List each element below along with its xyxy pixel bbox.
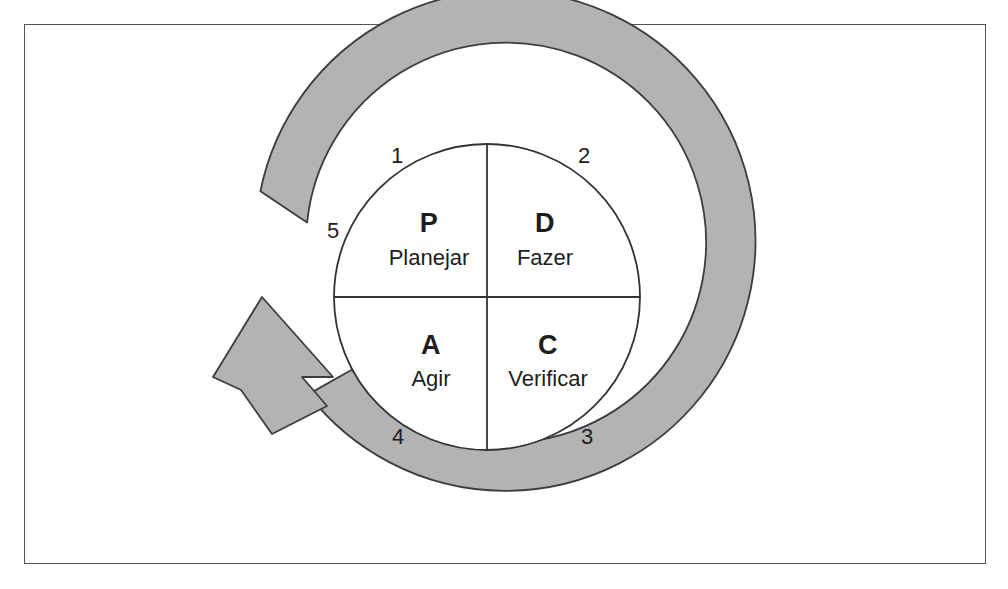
quadrant-letter-check: C (538, 330, 558, 361)
step-number-4: 4 (392, 424, 404, 450)
step-number-2: 2 (578, 143, 590, 169)
quadrant-word-do: Fazer (517, 245, 573, 271)
quadrant-letter-plan: P (420, 208, 438, 239)
pdca-inner-circle (334, 144, 640, 450)
pdca-diagram (0, 0, 1008, 589)
quadrant-word-act: Agir (411, 366, 450, 392)
figure-canvas: P Planejar D Fazer A Agir C Verificar 1 … (0, 0, 1008, 589)
cycle-arrow-head (213, 297, 333, 434)
step-number-5: 5 (327, 218, 339, 244)
quadrant-letter-do: D (535, 208, 555, 239)
quadrant-letter-act: A (421, 330, 441, 361)
quadrant-word-check: Verificar (508, 366, 587, 392)
step-number-1: 1 (391, 143, 403, 169)
step-number-3: 3 (581, 424, 593, 450)
quadrant-word-plan: Planejar (389, 245, 470, 271)
